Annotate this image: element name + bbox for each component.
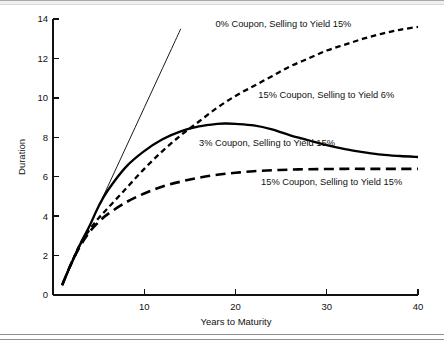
x-axis-group: 10203040: [53, 289, 423, 312]
bottom-rule-divider: [0, 334, 444, 340]
duration-vs-maturity-chart: 02468101214 10203040 0% Coupon, Selling …: [0, 0, 444, 349]
y-tick-label: 2: [43, 250, 48, 261]
series-annotation-15-coupon-selling-to-yield-6: 15% Coupon, Selling to Yield 6%: [258, 90, 394, 100]
y-tick-label: 14: [37, 13, 48, 24]
y-axis-title: Duration: [16, 139, 27, 175]
y-axis-group: 02468101214: [37, 13, 59, 300]
y-tick-label: 8: [43, 132, 48, 143]
series-group: [62, 27, 418, 285]
y-tick-label: 12: [37, 53, 48, 64]
x-tick-label: 10: [139, 301, 150, 312]
series-line-15-coupon-selling-to-yield-6: [62, 27, 418, 285]
y-tick-label: 6: [43, 171, 48, 182]
x-tick-group: 10203040: [139, 289, 423, 312]
x-tick-label: 30: [321, 301, 332, 312]
y-tick-label: 10: [37, 92, 48, 103]
series-annotation-3-coupon-selling-to-yield-15: 3% Coupon, Selling to Yield 15%: [199, 138, 335, 148]
x-tick-label: 40: [413, 301, 424, 312]
x-tick-label: 20: [230, 301, 241, 312]
y-tick-label: 0: [43, 289, 48, 300]
y-tick-group: 02468101214: [37, 13, 59, 300]
x-axis-title: Years to Maturity: [201, 316, 272, 327]
annotation-group: 0% Coupon, Selling to Yield 15%15% Coupo…: [199, 19, 402, 187]
y-tick-label: 4: [43, 211, 48, 222]
figure-canvas: 02468101214 10203040 0% Coupon, Selling …: [0, 0, 444, 349]
series-annotation-0-coupon-selling-to-yield-15: 0% Coupon, Selling to Yield 15%: [215, 19, 351, 29]
series-annotation-15-coupon-selling-to-yield-15: 15% Coupon, Selling to Yield 15%: [261, 177, 402, 187]
